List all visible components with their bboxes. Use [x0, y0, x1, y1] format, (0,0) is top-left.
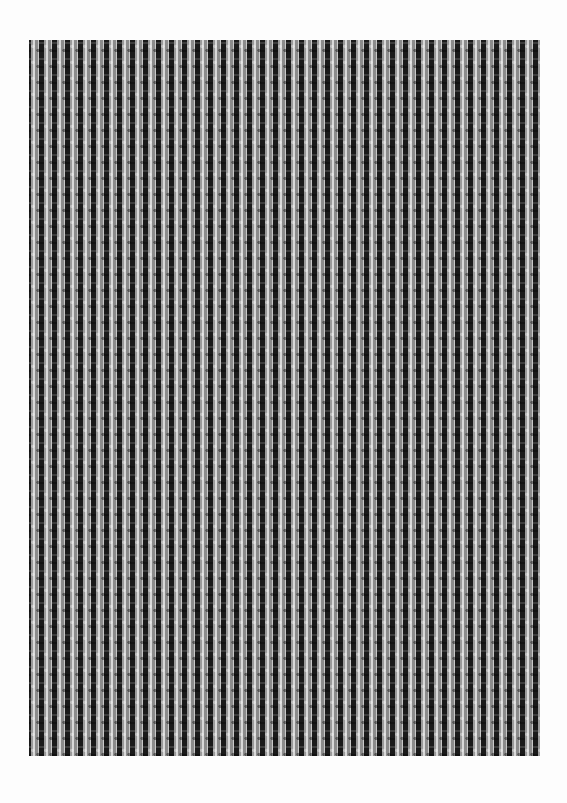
scanned-page: dense repeating textile-like weave patte…	[0, 0, 567, 803]
weave-pattern-block	[29, 40, 540, 756]
